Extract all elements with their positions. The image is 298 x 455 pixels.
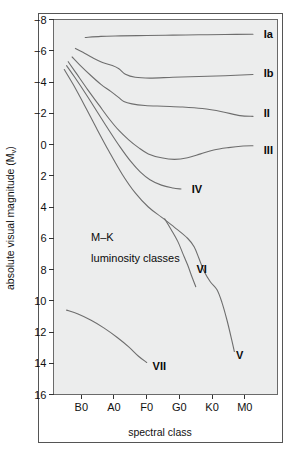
series-label-vi: VI: [196, 263, 206, 275]
hr-diagram-figure: −8−6−4−20246810121416 B0A0F0G0K0M0 absol…: [0, 0, 298, 455]
x-tick-label: B0: [75, 401, 88, 413]
series-label-iii: III: [264, 144, 273, 156]
x-tick-label: F0: [140, 401, 153, 413]
plot-area: [54, 20, 278, 395]
x-tick-label: G0: [172, 401, 187, 413]
y-tick-label: 8: [40, 264, 46, 276]
y-tick-label: 12: [34, 326, 46, 338]
series-label-ia: Ia: [264, 28, 274, 40]
y-axis-ticks: −8−6−4−20246810121416: [34, 14, 54, 401]
y-tick-label: 6: [40, 232, 46, 244]
x-axis-ticks: B0A0F0G0K0M0: [75, 395, 253, 413]
series-label-vii: VII: [153, 360, 166, 372]
x-tick-label: M0: [237, 401, 252, 413]
annotation-line-2: luminosity classes: [91, 252, 180, 264]
y-tick-label: −8: [34, 14, 47, 26]
series-label-ii: II: [264, 107, 270, 119]
series-label-v: V: [236, 349, 244, 361]
svg-text:absolute visual magnitude (Mv): absolute visual magnitude (Mv): [4, 146, 18, 290]
y-tick-label: 4: [40, 201, 46, 213]
y-tick-label: 14: [34, 357, 46, 369]
y-tick-label: −6: [34, 45, 47, 57]
series-label-iv: IV: [192, 183, 203, 195]
series-label-ib: Ib: [264, 67, 274, 79]
y-axis-title-main: absolute visual magnitude (M: [4, 153, 16, 290]
chart-svg: −8−6−4−20246810121416 B0A0F0G0K0M0 absol…: [0, 0, 298, 455]
y-axis-title: absolute visual magnitude (Mv): [4, 146, 18, 290]
y-tick-label: 10: [34, 295, 46, 307]
y-axis-title-suffix: ): [4, 146, 16, 150]
x-tick-label: K0: [205, 401, 218, 413]
x-axis-title: spectral class: [128, 426, 192, 438]
y-tick-label: −2: [34, 107, 47, 119]
y-tick-label: 0: [40, 139, 46, 151]
y-tick-label: 2: [40, 170, 46, 182]
annotation-line-1: M–K: [91, 231, 114, 243]
y-tick-label: −4: [34, 76, 47, 88]
x-tick-label: A0: [107, 401, 120, 413]
y-tick-label: 16: [34, 389, 46, 401]
